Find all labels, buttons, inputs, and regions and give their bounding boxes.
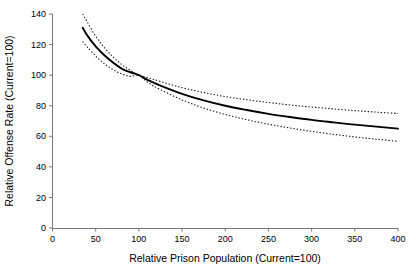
y-axis-title: Relative Offense Rate (Current=100) [3,35,15,206]
y-tick-label: 40 [36,162,46,172]
x-tick-label: 0 [50,234,55,244]
x-tick-label: 400 [390,234,405,244]
y-tick-label: 0 [41,223,46,233]
x-axis-title: Relative Prison Population (Current=100) [129,252,321,264]
x-tick-label: 250 [261,234,276,244]
chart-figure: 020406080100120140 050100150200250300350… [0,0,416,269]
y-tick-label: 100 [31,70,46,80]
y-tick-label: 140 [31,9,46,19]
y-tick-label: 120 [31,40,46,50]
x-tick-label: 150 [175,234,190,244]
x-tick-label: 200 [218,234,233,244]
x-tick-label: 350 [347,234,362,244]
chart-canvas: 020406080100120140 050100150200250300350… [0,0,416,269]
y-tick-label: 20 [36,193,46,203]
x-tick-label: 100 [131,234,146,244]
y-tick-label: 80 [36,101,46,111]
x-tick-label: 300 [304,234,319,244]
y-tick-label: 60 [36,131,46,141]
x-tick-label: 50 [91,234,101,244]
